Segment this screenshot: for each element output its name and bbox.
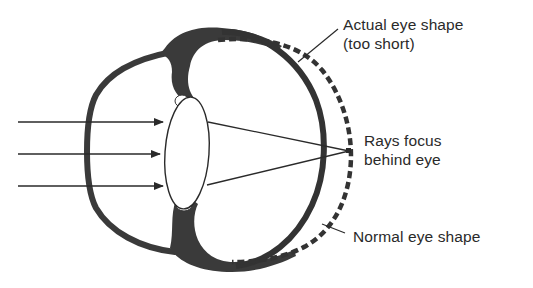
focal-point [346,148,351,153]
refracted-ray-top [208,122,349,151]
lens [161,96,213,211]
actual-eyeball-outline [222,32,324,266]
leader-actual-shape [298,29,338,62]
label-actual-eye-shape: Actual eye shape (too short) [343,15,464,53]
cornea [87,52,175,252]
label-actual-line1: Actual eye shape [343,15,464,34]
label-focus-line2: behind eye [364,150,442,169]
label-rays-focus: Rays focus behind eye [364,131,442,169]
label-normal-text: Normal eye shape [353,228,480,245]
normal-eyeball-outline-dashed [218,39,351,262]
label-focus-line1: Rays focus [364,131,442,150]
label-actual-line2: (too short) [343,34,464,53]
label-normal-eye-shape: Normal eye shape [353,227,480,246]
refracted-ray-bottom [207,151,349,185]
